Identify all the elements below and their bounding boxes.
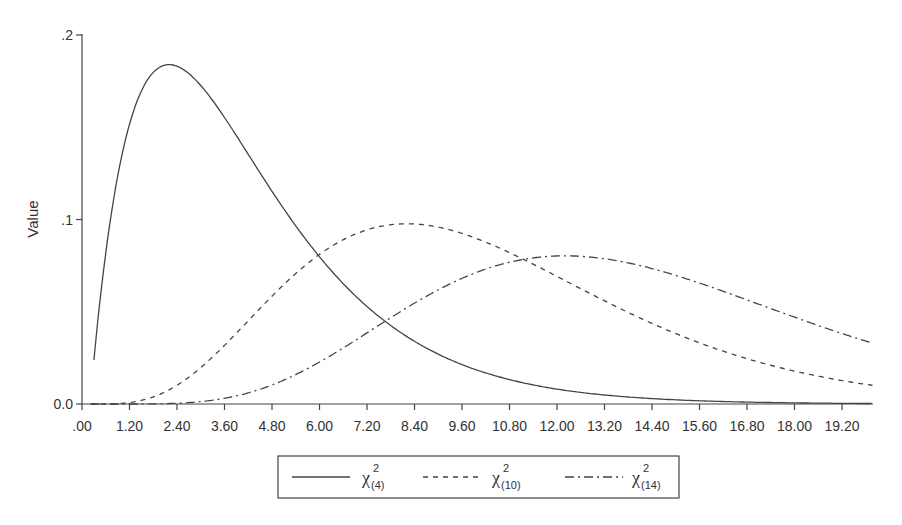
x-tick-label: 19.20	[824, 418, 859, 434]
x-tick-label: 15.60	[682, 418, 717, 434]
x-tick-label: 13.20	[587, 418, 622, 434]
y-tick-label: 0.0	[54, 396, 74, 412]
y-tick-label: .2	[61, 27, 73, 43]
legend-label-sup: 2	[643, 462, 649, 474]
legend-label: χ	[361, 468, 370, 488]
legend-label-sup: 2	[373, 462, 379, 474]
x-tick-label: 4.80	[258, 418, 285, 434]
chi-square-chart: 0.0.1.2 .001.202.403.604.806.007.208.409…	[0, 0, 902, 525]
x-tick-label: 18.00	[777, 418, 812, 434]
curves	[91, 65, 873, 404]
curve-chi2-df14	[91, 256, 873, 404]
x-tick-label: 6.00	[306, 418, 333, 434]
legend-label: χ	[491, 468, 500, 488]
x-tick-label: .00	[72, 418, 92, 434]
x-tick-label: 8.40	[401, 418, 428, 434]
legend-label: χ	[631, 468, 640, 488]
x-tick-label: 7.20	[353, 418, 380, 434]
x-tick-label: 10.80	[492, 418, 527, 434]
legend-label-sup: 2	[503, 462, 509, 474]
y-tick-label: .1	[61, 212, 73, 228]
plot-area: 0.0.1.2 .001.202.403.604.806.007.208.409…	[24, 27, 873, 434]
legend: χ2(4)χ2(10)χ2(14)	[278, 456, 679, 498]
curve-chi2-df10	[91, 224, 873, 404]
x-tick-label: 14.40	[634, 418, 669, 434]
x-tick-label: 9.60	[448, 418, 475, 434]
x-ticks: .001.202.403.604.806.007.208.409.6010.80…	[72, 404, 859, 434]
legend-label-sub: (4)	[371, 479, 384, 491]
y-ticks: 0.0.1.2	[54, 27, 82, 412]
x-tick-label: 1.20	[116, 418, 143, 434]
x-tick-label: 3.60	[211, 418, 238, 434]
legend-label-sub: (10)	[501, 479, 521, 491]
x-tick-label: 2.40	[163, 418, 190, 434]
curve-chi2-df4	[94, 65, 872, 404]
y-axis-title: Value	[24, 200, 41, 237]
legend-label-sub: (14)	[641, 479, 661, 491]
x-tick-label: 16.80	[729, 418, 764, 434]
x-tick-label: 12.00	[539, 418, 574, 434]
